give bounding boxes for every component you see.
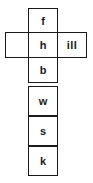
grid-cell-col-4[interactable]: s bbox=[28, 116, 58, 146]
grid-cell-label: h bbox=[40, 40, 47, 51]
grid-cell-col-1-intersection[interactable]: h bbox=[28, 32, 58, 58]
grid-cell-label: b bbox=[40, 65, 47, 76]
grid-cell-col-2[interactable]: b bbox=[28, 57, 58, 83]
grid-cell-label: f bbox=[41, 16, 45, 27]
grid-cell-label: ill bbox=[67, 40, 78, 51]
grid-cell-label: s bbox=[40, 126, 46, 137]
grid-cell-row-left[interactable] bbox=[5, 32, 29, 58]
grid-cell-label: w bbox=[39, 96, 48, 107]
grid-cell-col-5[interactable]: k bbox=[28, 146, 58, 176]
grid-cell-label: k bbox=[40, 156, 46, 167]
cross-grid-figure: ill f h b w s k bbox=[0, 0, 93, 183]
grid-cell-col-3[interactable]: w bbox=[28, 86, 58, 116]
grid-cell-row-right[interactable]: ill bbox=[57, 32, 87, 58]
grid-cell-col-0[interactable]: f bbox=[28, 8, 58, 34]
